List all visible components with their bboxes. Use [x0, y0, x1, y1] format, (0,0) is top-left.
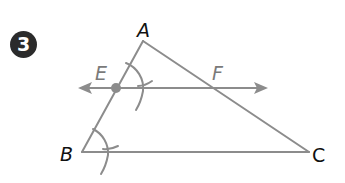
arc-e-tick [138, 81, 152, 86]
side-ac [143, 41, 309, 152]
vertex-label-c: C [312, 146, 325, 165]
point-label-f: F [212, 64, 223, 83]
point-e-dot [111, 83, 121, 93]
vertex-label-b: B [60, 145, 73, 164]
point-label-e: E [95, 64, 107, 83]
arc-b-tick [103, 146, 118, 149]
side-ab [82, 41, 143, 152]
diagram-svg [0, 0, 345, 183]
vertex-label-a: A [137, 21, 150, 40]
geometry-diagram: 3 A B C E F [0, 0, 345, 183]
